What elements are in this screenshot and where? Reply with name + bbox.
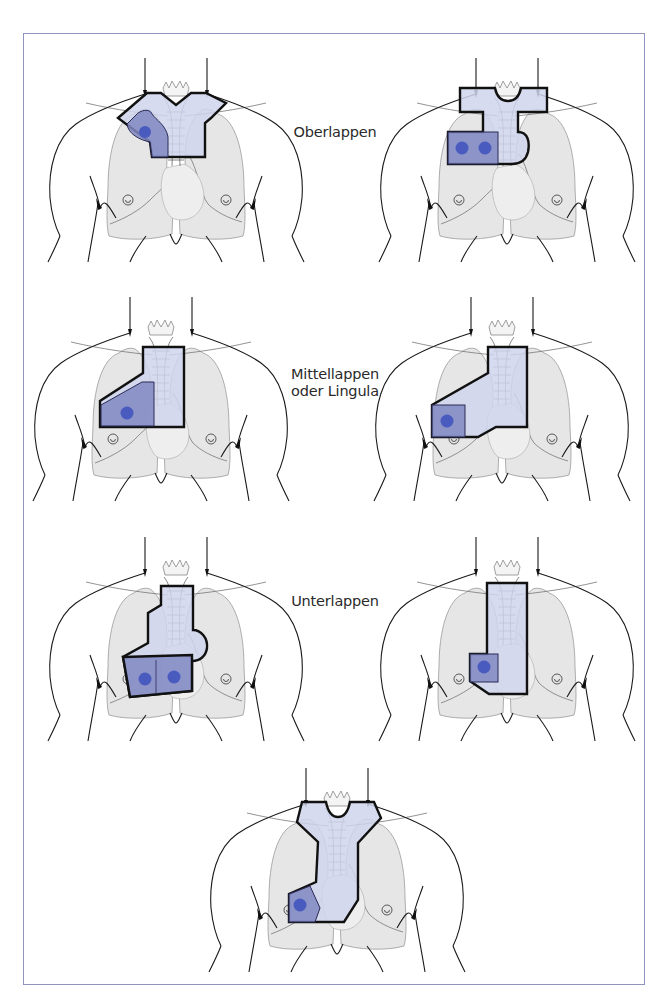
figure-right-upper-lobe (48, 58, 304, 262)
figure-lingula (374, 297, 630, 501)
figure-right-lower-lobe-extended (209, 768, 465, 972)
label-middle-lobe-line1: Mittellappen (280, 366, 390, 383)
tumor-dot (168, 671, 181, 684)
tumor-dot (441, 415, 454, 428)
boost-field (123, 655, 192, 697)
tumor-dot (121, 407, 134, 420)
label-middle-lobe-line2: oder Lingula (280, 383, 390, 400)
tumor-dot (479, 142, 492, 155)
label-upper-lobe: Oberlappen (280, 124, 390, 141)
tumor-dot (139, 673, 152, 686)
tumor-dot (139, 126, 151, 138)
figure-left-upper-lobe (379, 58, 635, 262)
label-lower-lobe: Unterlappen (280, 593, 390, 610)
figure-right-middle-lobe (33, 297, 289, 501)
figure-left-lower-lobe (379, 537, 635, 741)
torso-outline (48, 58, 304, 262)
tumor-dot (456, 142, 469, 155)
figure-right-lower-lobe (48, 537, 304, 741)
lung-field-diagrams (0, 0, 671, 997)
tumor-dot (478, 661, 491, 674)
tumor-dot (294, 899, 307, 912)
